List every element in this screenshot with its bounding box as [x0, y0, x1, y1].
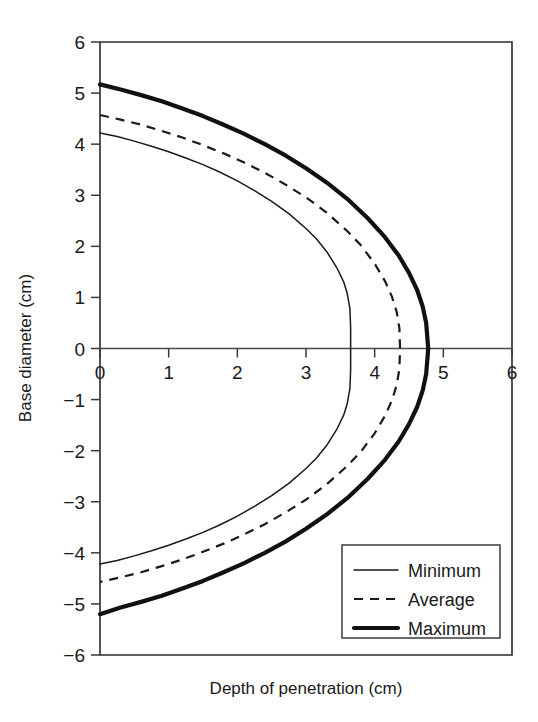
y-axis-ticks [91, 42, 100, 655]
x-tick-label: 5 [438, 362, 449, 383]
y-tick-label: −4 [63, 543, 85, 564]
legend-label-minimum: Minimum [408, 561, 481, 581]
legend-label-average: Average [408, 590, 475, 610]
x-tick-label: 1 [163, 362, 174, 383]
legend-label-maximum: Maximum [408, 619, 486, 639]
y-axis-tick-labels: 6543210−1−2−3−4−5−6 [63, 32, 85, 666]
y-tick-label: −1 [63, 390, 85, 411]
y-tick-label: 6 [74, 32, 85, 53]
y-tick-label: −2 [63, 441, 85, 462]
data-series-group [100, 84, 428, 614]
x-tick-label: 6 [507, 362, 518, 383]
y-tick-label: −6 [63, 645, 85, 666]
y-tick-label: 5 [74, 83, 85, 104]
y-tick-label: 0 [74, 339, 85, 360]
y-tick-label: 2 [74, 236, 85, 257]
y-tick-label: 1 [74, 287, 85, 308]
x-tick-label: 0 [95, 362, 106, 383]
x-axis-tick-labels: 0123456 [95, 362, 518, 383]
x-axis-ticks [100, 349, 512, 358]
y-axis-title: Base diameter (cm) [16, 274, 35, 422]
chart-legend: MinimumAverageMaximum [342, 545, 500, 639]
y-tick-label: 3 [74, 185, 85, 206]
y-tick-label: −3 [63, 492, 85, 513]
plot-area: 6543210−1−2−3−4−5−6 0123456 Depth of pen… [0, 0, 538, 722]
x-axis-title: Depth of penetration (cm) [210, 679, 403, 698]
y-tick-label: −5 [63, 594, 85, 615]
y-tick-label: 4 [74, 134, 85, 155]
x-tick-label: 3 [301, 362, 312, 383]
chart-figure: 6543210−1−2−3−4−5−6 0123456 Depth of pen… [0, 0, 538, 722]
series-line-maximum [100, 84, 428, 614]
x-tick-label: 4 [369, 362, 380, 383]
x-tick-label: 2 [232, 362, 243, 383]
